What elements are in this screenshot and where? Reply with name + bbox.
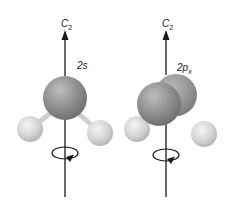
axis-label-c2: C2: [61, 18, 72, 31]
orbital-label-2px: 2px: [176, 62, 192, 75]
hydrogen-sphere-right: [191, 121, 217, 147]
orbital-label-2s: 2s: [76, 60, 88, 71]
hydrogen-sphere-right: [87, 120, 113, 146]
hydrogen-sphere-left: [17, 116, 43, 142]
central-sphere-2s: [43, 76, 87, 120]
axis-label-c2: C2: [162, 18, 173, 31]
symmetry-diagram: C2 2s C2 2px: [0, 0, 231, 209]
axis-arrowhead-icon: [62, 30, 69, 40]
p-orbital-lobe-front: [137, 82, 181, 126]
axis-arrowhead-icon: [163, 30, 170, 40]
figure-2px: C2 2px: [124, 18, 217, 197]
figure-2s: C2 2s: [17, 18, 113, 197]
